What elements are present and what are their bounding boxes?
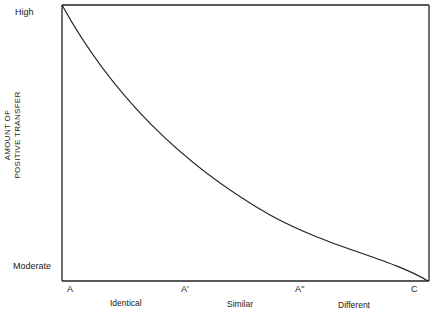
y-tick-high: High	[15, 7, 34, 17]
x-tick-a: A	[67, 284, 73, 294]
x-tick-c: C	[411, 284, 418, 294]
x-tick-a-prime: A'	[181, 284, 189, 294]
transfer-curve	[62, 5, 428, 281]
y-axis-label: AMOUNT OF POSITIVE TRANSFER	[3, 91, 23, 178]
y-axis-label-line1: AMOUNT OF	[3, 91, 13, 178]
region-label-identical: Identical	[110, 298, 142, 308]
chart-canvas	[0, 0, 432, 319]
region-label-different: Different	[338, 300, 370, 310]
y-axis-label-line2: POSITIVE TRANSFER	[13, 91, 23, 178]
x-tick-a-double-prime: A''	[295, 284, 304, 294]
y-tick-moderate: Moderate	[13, 261, 51, 271]
region-label-similar: Similar	[227, 299, 253, 309]
